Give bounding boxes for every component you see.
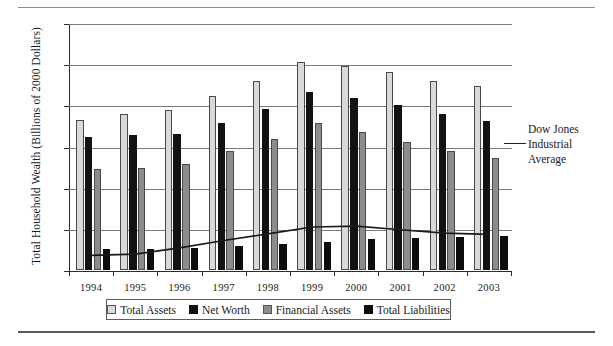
- legend-label: Total Liabilities: [377, 304, 450, 316]
- legend-item-total-liabilities[interactable]: Total Liabilities: [364, 304, 450, 316]
- chart-legend: Total AssetsNet WorthFinancial AssetsTot…: [106, 299, 451, 320]
- x-tick-mark: [467, 271, 468, 276]
- x-tick-mark: [69, 271, 70, 276]
- legend-swatch-icon: [107, 305, 116, 314]
- legend-item-total-assets[interactable]: Total Assets: [107, 304, 176, 316]
- legend-label: Financial Assets: [276, 304, 351, 316]
- y-axis-title: Total Household Wealth (Billions of 2000…: [30, 19, 42, 274]
- x-tick-mark: [157, 271, 158, 276]
- x-tick-mark: [378, 271, 379, 276]
- plot-area: 0100002000030000400005000060000 19941995…: [69, 24, 511, 271]
- x-tick-mark: [423, 271, 424, 276]
- x-tick-mark: [334, 271, 335, 276]
- legend-swatch-icon: [263, 305, 272, 314]
- x-tick-mark: [113, 271, 114, 276]
- legend-label: Net Worth: [202, 304, 250, 316]
- dow-jones-line: [69, 24, 512, 272]
- top-divider-rule: [18, 7, 595, 8]
- annotation-line-1: Dow Jones: [528, 122, 608, 137]
- annotation-line-2: Industrial: [528, 137, 608, 152]
- annotation-line-3: Average: [528, 152, 608, 167]
- legend-item-net-worth[interactable]: Net Worth: [189, 304, 250, 316]
- bottom-divider-rule: [18, 331, 595, 333]
- x-tick-label-2003: 2003: [459, 282, 519, 293]
- annotation-leader-line: [504, 143, 526, 144]
- legend-swatch-icon: [189, 305, 198, 314]
- legend-label: Total Assets: [120, 304, 176, 316]
- dow-jones-annotation: Dow Jones Industrial Average: [528, 122, 608, 167]
- x-tick-mark: [290, 271, 291, 276]
- x-tick-mark: [246, 271, 247, 276]
- legend-swatch-icon: [364, 305, 373, 314]
- x-tick-mark: [511, 271, 512, 276]
- legend-item-financial-assets[interactable]: Financial Assets: [263, 304, 351, 316]
- chart-figure: Total Household Wealth (Billions of 2000…: [0, 0, 613, 346]
- x-tick-mark: [202, 271, 203, 276]
